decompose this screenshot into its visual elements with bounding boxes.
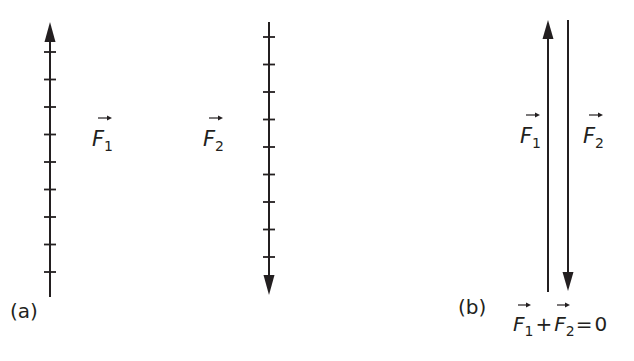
vector-f2-arrow-down [563, 20, 574, 291]
vector-arrow-over-f2 [209, 116, 223, 121]
vector-arrow-over-term1 [518, 303, 531, 308]
panel-a-label: (a) [10, 299, 38, 323]
equation-text: F1+F2=0 [513, 312, 607, 339]
vector-arrow-over-f2 [589, 113, 603, 118]
label-f1: F1 [520, 124, 541, 151]
label-f2: F2 [583, 124, 604, 151]
vector-arrow-over-term2 [557, 303, 570, 308]
vector-arrow-over-f1 [526, 113, 540, 118]
panel-b: F1 F2 (b) F1+F2=0 [458, 20, 607, 339]
equation: F1+F2=0 [513, 303, 607, 340]
arrowhead-down-icon [264, 275, 275, 295]
arrowhead-down-icon [563, 272, 574, 291]
vector-f2-arrow-down [263, 22, 275, 295]
arrowhead-up-icon [543, 20, 554, 39]
arrowhead-up-icon [45, 22, 56, 42]
vector-f1-arrow-up [543, 20, 554, 292]
panel-b-label: (b) [458, 295, 486, 319]
vector-f1-arrow-up [44, 22, 56, 297]
label-f2: F2 [203, 127, 224, 154]
panel-a: F1 F2 (a) [10, 22, 275, 323]
vector-arrow-over-f1 [98, 116, 112, 121]
label-f1: F1 [92, 127, 113, 154]
force-diagram: F1 F2 (a) F1 F2 (b) [0, 0, 634, 361]
